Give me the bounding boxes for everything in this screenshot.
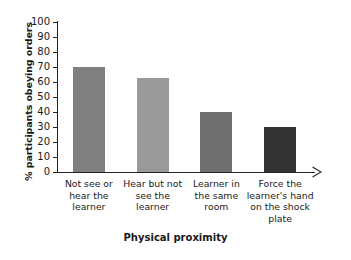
y-tick-mark — [53, 97, 58, 98]
y-tick-mark — [53, 127, 58, 128]
y-tick-mark — [53, 22, 58, 23]
y-axis-title: % participants obeying orders — [23, 12, 34, 192]
y-tick-label: 40 — [37, 107, 50, 117]
bar — [200, 112, 232, 172]
y-tick-label: 30 — [37, 122, 50, 132]
y-tick-mark — [53, 67, 58, 68]
y-tick-mark — [53, 82, 58, 83]
plot-area: 0102030405060708090100 — [57, 22, 312, 172]
y-tick-mark — [53, 142, 58, 143]
y-tick-label: 90 — [37, 32, 50, 42]
x-axis-title: Physical proximity — [0, 232, 351, 243]
y-tick-mark — [53, 112, 58, 113]
bar — [264, 127, 296, 172]
y-tick-mark — [53, 52, 58, 53]
y-tick-label: 60 — [37, 77, 50, 87]
y-tick-label: 50 — [37, 92, 50, 102]
y-tick-label: 70 — [37, 62, 50, 72]
bar — [137, 78, 169, 172]
y-tick-label: 100 — [31, 17, 50, 27]
x-axis-arrow-icon — [312, 166, 322, 178]
y-tick-mark — [53, 157, 58, 158]
y-tick-label: 80 — [37, 47, 50, 57]
y-tick-mark — [53, 172, 58, 173]
y-tick-label: 0 — [44, 167, 50, 177]
bar-chart: % participants obeying orders 0102030405… — [0, 0, 351, 260]
y-tick-label: 20 — [37, 137, 50, 147]
y-tick-label: 10 — [37, 152, 50, 162]
y-tick-mark — [53, 37, 58, 38]
x-category-label: Force the learner's hand on the shock pl… — [242, 178, 318, 224]
bar — [73, 67, 105, 172]
